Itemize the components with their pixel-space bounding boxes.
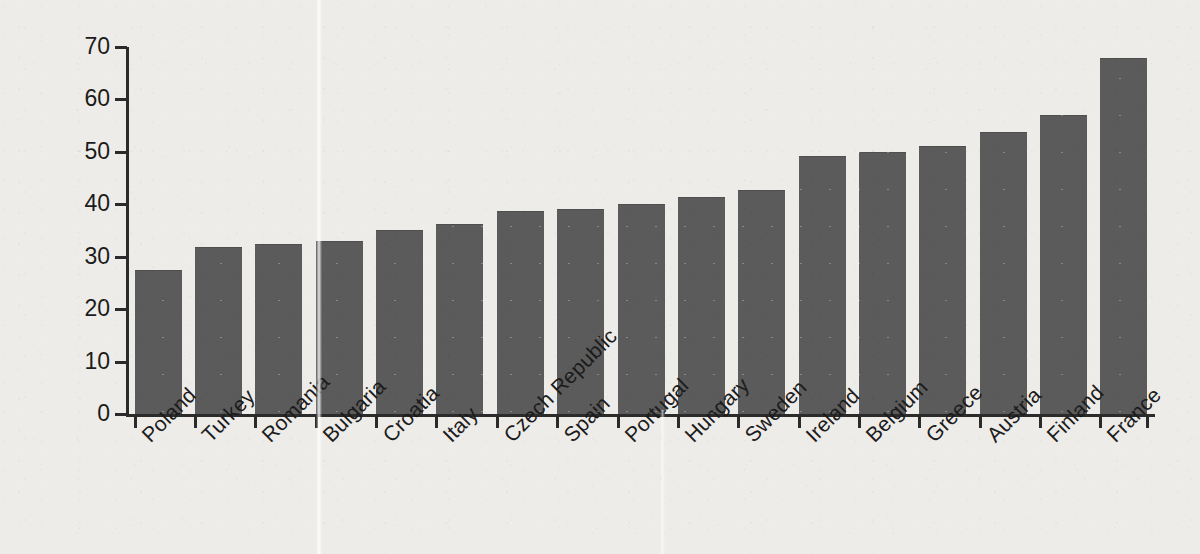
y-axis-tick-label-text: 60 — [58, 87, 110, 110]
y-axis-tick — [115, 413, 127, 416]
y-axis-tick-label: 10 — [52, 350, 110, 374]
plot-area — [128, 47, 1154, 414]
x-axis-tick — [979, 417, 982, 428]
x-axis-tick — [918, 417, 921, 428]
y-axis-tick-label: 20 — [52, 297, 110, 321]
y-axis-tick-label-text: 0 — [58, 402, 110, 425]
y-axis-tick-label-text: 40 — [58, 192, 110, 215]
bar-austria — [980, 132, 1027, 414]
x-axis-tick — [1039, 417, 1042, 428]
x-axis-tick — [556, 417, 559, 428]
bar-italy — [436, 224, 483, 414]
bar-portugal — [618, 204, 665, 414]
y-axis-tick-label: 70 — [52, 35, 110, 59]
bar-finland — [1040, 115, 1087, 414]
x-axis-tick — [737, 417, 740, 428]
x-axis-tick — [858, 417, 861, 428]
y-axis-tick-label-text: 10 — [58, 350, 110, 373]
y-axis-tick — [115, 256, 127, 259]
y-axis-tick — [115, 98, 127, 101]
y-axis-tick — [115, 46, 127, 49]
x-axis-tick — [677, 417, 680, 428]
bar-belgium — [859, 152, 906, 414]
y-axis-tick-label-text: 50 — [58, 140, 110, 163]
x-axis-tick — [1099, 417, 1102, 428]
x-axis-tick — [315, 417, 318, 428]
x-axis-tick — [194, 417, 197, 428]
y-axis-tick-label: 0 — [52, 402, 110, 426]
x-axis-tick — [375, 417, 378, 428]
y-axis-tick-label: 60 — [52, 87, 110, 111]
y-axis-tick-label-text: 30 — [58, 245, 110, 268]
bar-chart-figure: respondents, % 010203040506070PolandTurk… — [0, 0, 1200, 554]
bar-czech-republic — [497, 211, 544, 414]
y-axis-tick-label-text: 70 — [58, 35, 110, 58]
y-axis-tick-label: 50 — [52, 140, 110, 164]
y-axis-tick-label-text: 20 — [58, 297, 110, 320]
y-axis-tick — [115, 203, 127, 206]
bar-greece — [919, 146, 966, 414]
y-axis-tick — [115, 361, 127, 364]
x-axis-tick — [798, 417, 801, 428]
x-axis-tick — [1146, 417, 1149, 428]
y-axis-tick — [115, 308, 127, 311]
x-axis-tick — [496, 417, 499, 428]
y-axis-tick-label: 30 — [52, 245, 110, 269]
y-axis-tick — [115, 151, 127, 154]
bar-ireland — [799, 156, 846, 414]
bar-france — [1100, 58, 1147, 414]
x-axis-tick — [254, 417, 257, 428]
x-axis-tick — [435, 417, 438, 428]
y-axis-tick-label: 40 — [52, 192, 110, 216]
x-axis-tick — [617, 417, 620, 428]
bar-turkey — [195, 247, 242, 414]
bar-romania — [255, 244, 302, 414]
x-axis-tick — [134, 417, 137, 428]
